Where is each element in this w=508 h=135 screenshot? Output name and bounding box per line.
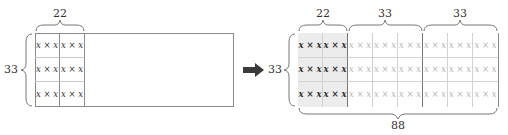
right-bottom-label: 88 — [380, 119, 416, 132]
right-bottom-brace — [0, 0, 508, 135]
